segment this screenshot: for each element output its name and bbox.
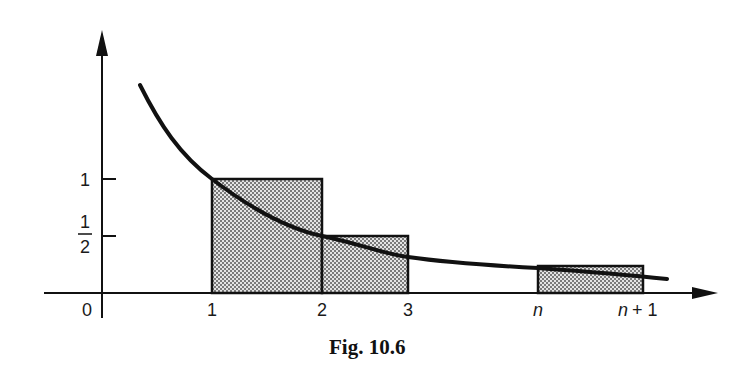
x-tick-label-2: 2 [317,300,327,320]
shaded-rectangles [212,179,643,293]
x-axis-arrow-icon [692,287,718,299]
y-tick-label-1: 1 [80,170,90,190]
y-tick-label-half-denominator: 2 [80,237,90,257]
y-tick-label-half-numerator: 1 [80,212,90,232]
figure-canvas: 0 1 2 3 n n+ 1 1 1 2 Fig. 10.6 [0,0,753,381]
x-tick-label-3: 3 [403,300,413,320]
rectangle-1-to-2 [212,179,322,293]
figure-caption: Fig. 10.6 [329,335,405,359]
rectangle-2-to-3 [322,236,408,293]
x-tick-label-1: 1 [207,300,217,320]
origin-label: 0 [82,300,92,320]
x-tick-label-n-plus-1: n+ 1 [618,300,658,320]
y-axis-arrow-icon [96,30,108,56]
x-tick-label-n: n [533,300,543,320]
